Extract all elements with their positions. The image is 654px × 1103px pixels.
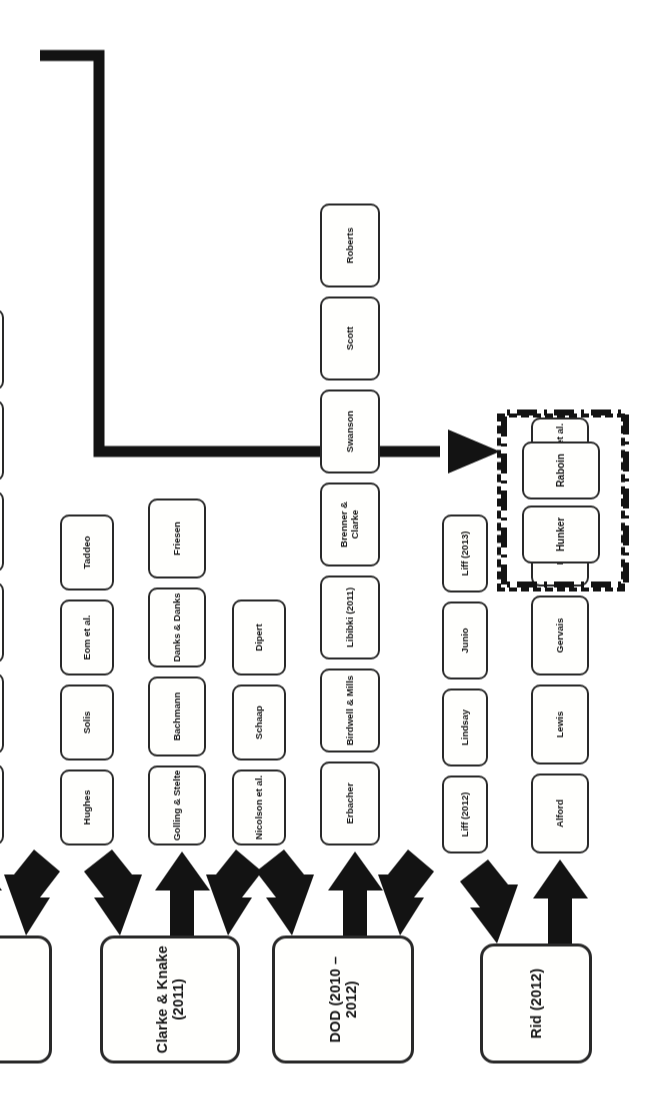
leaf-label: Raboin <box>555 453 566 487</box>
flowchart-canvas: Rid (2012) Liff (2012) Lindsay Junio Lif… <box>0 0 654 1103</box>
highlight-cluster-border <box>497 413 625 591</box>
leaf-raboin[interactable]: Raboin <box>522 441 600 499</box>
leaf-label: Hunker <box>555 517 566 551</box>
diagram-rotator: Rid (2012) Liff (2012) Lindsay Junio Lif… <box>0 0 654 1103</box>
leaf-hunker[interactable]: Hunker <box>522 505 600 563</box>
